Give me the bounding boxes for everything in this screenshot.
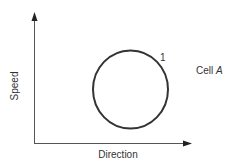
cell-annotation: Cell A: [196, 65, 223, 76]
cell-annotation-prefix: Cell: [196, 65, 216, 76]
y-axis-label: Speed: [9, 72, 20, 101]
circle-1: [93, 51, 168, 129]
y-axis-arrow-icon: [32, 12, 38, 21]
circle-1-label: 1: [160, 52, 166, 63]
x-axis-arrow-icon: [183, 141, 192, 147]
diagram-canvas: 1 Cell A Speed Direction: [0, 0, 235, 165]
x-axis-label: Direction: [98, 149, 137, 160]
cell-annotation-letter: A: [215, 65, 223, 76]
